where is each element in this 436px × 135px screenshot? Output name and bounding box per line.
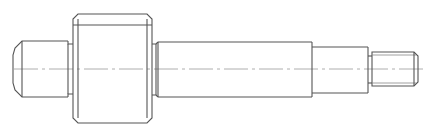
main-body [73, 14, 152, 123]
step-shaft [312, 47, 368, 93]
shaft-drawing [0, 0, 436, 135]
right-relief-groove [152, 42, 158, 97]
thread-neck [368, 56, 372, 83]
main-shaft [158, 42, 312, 97]
